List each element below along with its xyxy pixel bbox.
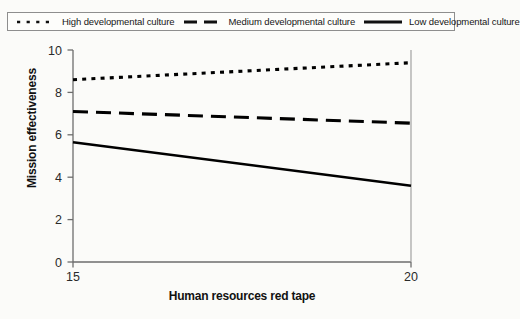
legend-label-high: High developmental culture: [62, 16, 175, 27]
x-tick-label-15: 15: [66, 270, 80, 281]
y-tick-label-2: 2: [55, 213, 62, 227]
line-chart: 10 8 6 4 2 0 15 20: [0, 36, 464, 281]
legend-item-low: Low developmental culture: [355, 13, 520, 30]
legend-label-medium: Medium developmental culture: [229, 16, 356, 27]
y-axis-title: Mission effectiveness: [25, 33, 39, 223]
y-tick-label-0: 0: [55, 256, 62, 270]
legend-item-high: High developmental culture: [8, 13, 175, 30]
legend-item-medium: Medium developmental culture: [175, 13, 356, 30]
series-group: [73, 63, 411, 186]
series-line-medium-developmental-culture: [73, 111, 411, 123]
legend-label-low: Low developmental culture: [409, 16, 520, 27]
series-line-low-developmental-culture: [73, 142, 411, 185]
y-tick-label-10: 10: [48, 44, 62, 58]
dotted-line-swatch: [16, 17, 56, 27]
chart-legend: High developmental culture Medium develo…: [7, 12, 455, 31]
y-tick-label-8: 8: [55, 86, 62, 100]
solid-line-swatch: [363, 17, 403, 27]
dashed-line-swatch: [183, 17, 223, 27]
y-tick-label-6: 6: [55, 128, 62, 142]
x-tick-label-20: 20: [404, 270, 418, 281]
series-line-high-developmental-culture: [73, 63, 411, 80]
x-axis-title: Human resources red tape: [73, 289, 411, 303]
y-tick-label-4: 4: [55, 171, 62, 185]
plot-canvas: 10 8 6 4 2 0 15 20: [0, 36, 464, 281]
